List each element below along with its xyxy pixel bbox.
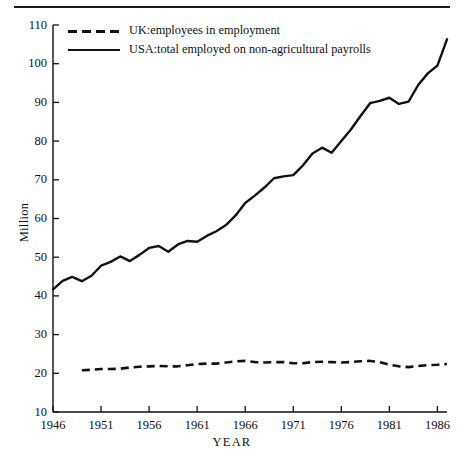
y-tick-label: 80 (7, 135, 47, 148)
y-tick-label: 10 (7, 406, 47, 419)
chart-legend: UK:employees in employment USA:total emp… (68, 24, 371, 62)
y-tick-label: 20 (7, 367, 47, 380)
x-tick-label: 1986 (414, 419, 460, 432)
series-line-uk (82, 361, 447, 370)
legend-item-usa: USA:total employed on non-agricultural p… (68, 43, 371, 57)
x-tick-label: 1981 (366, 419, 412, 432)
x-tick-label: 1971 (270, 419, 316, 432)
y-tick-label: 30 (7, 328, 47, 341)
x-tick-label: 1961 (174, 419, 220, 432)
legend-item-uk: UK:employees in employment (68, 24, 371, 38)
y-axis-ticks (53, 25, 59, 412)
x-axis-title: YEAR (0, 435, 464, 450)
figure-employment-chart: 102030405060708090100110 194619511956196… (0, 0, 464, 455)
y-tick-label: 110 (7, 19, 47, 32)
x-tick-label: 1956 (126, 419, 172, 432)
x-tick-label: 1966 (222, 419, 268, 432)
x-tick-label: 1946 (30, 419, 76, 432)
x-axis-ticks (53, 406, 437, 412)
x-tick-label: 1976 (318, 419, 364, 432)
legend-label-usa: USA:total employed on non-agricultural p… (129, 43, 371, 57)
series-line-usa (53, 39, 447, 289)
x-tick-label: 1951 (78, 419, 124, 432)
legend-swatch-dashed-icon (68, 24, 120, 38)
legend-swatch-solid-icon (68, 43, 120, 57)
legend-label-uk: UK:employees in employment (129, 24, 280, 38)
chart-axes (53, 25, 447, 412)
y-axis-title: Million (17, 183, 32, 263)
y-tick-label: 100 (7, 57, 47, 70)
chart-plot-area (0, 0, 464, 455)
y-tick-label: 40 (7, 289, 47, 302)
y-tick-label: 90 (7, 96, 47, 109)
